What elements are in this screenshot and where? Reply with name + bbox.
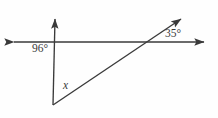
angle-label-35: 35° — [165, 28, 181, 40]
figure-canvas — [0, 0, 218, 118]
steep-ray — [53, 19, 55, 105]
diagonal-ray — [53, 19, 181, 105]
angle-label-x: x — [63, 80, 68, 92]
angle-label-96: 96° — [32, 43, 48, 55]
geometry-figure: 96° 35° x — [0, 0, 218, 118]
